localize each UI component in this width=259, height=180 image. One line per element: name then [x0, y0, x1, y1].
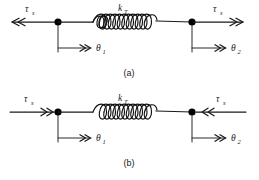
- panel-b-left-torque-subscript: s: [31, 99, 34, 106]
- panel-b-right-torque-arrow: [196, 108, 246, 116]
- panel-b-theta2-indicator: [192, 115, 226, 142]
- panel-a-theta2-subscript: 2: [238, 48, 242, 55]
- panel-b-theta2-symbol: θ: [231, 133, 236, 143]
- panel-b-theta1-indicator: [58, 115, 91, 142]
- panel-b-caption: (b): [124, 158, 135, 168]
- panel-a-theta1-subscript: 1: [103, 48, 106, 55]
- panel-a-theta2-indicator: [192, 25, 226, 52]
- panel-b-right-torque-symbol: τ: [216, 94, 220, 104]
- panel-b-left-torque-arrow: [10, 108, 54, 116]
- panel-a-spring-coil: [93, 14, 157, 29]
- panel-a-spring-label-subscript: T: [124, 8, 128, 15]
- panel-b-spring-label-subscript: T: [124, 98, 128, 105]
- panel-a-theta2-symbol: θ: [231, 43, 236, 53]
- panel-a-right-torque-arrow: [193, 18, 243, 26]
- panel-a-left-torque-arrow: [12, 18, 57, 26]
- panel-b-spring-label: k: [118, 93, 123, 103]
- panel-a-spring-label: k: [118, 3, 123, 13]
- panel-a: τ s k T: [0, 0, 259, 90]
- panel-a-theta1-symbol: θ: [96, 43, 101, 53]
- panel-a-theta1-indicator: [58, 25, 91, 52]
- panel-a-right-shaft: [156, 21, 192, 22]
- panel-b-left-torque-symbol: τ: [24, 94, 28, 104]
- panel-b: τ s k T: [0, 90, 259, 180]
- panel-b-theta1-subscript: 1: [103, 138, 106, 145]
- panel-b-spring-coil: [93, 104, 157, 119]
- panel-b-theta2-subscript: 2: [238, 138, 242, 145]
- panel-b-right-torque-subscript: s: [223, 99, 226, 106]
- panel-a-caption: (a): [124, 68, 135, 78]
- panel-a-right-torque-subscript: s: [220, 9, 223, 16]
- panel-b-theta1-symbol: θ: [96, 133, 101, 143]
- panel-a-left-torque-subscript: s: [32, 9, 35, 16]
- panel-a-right-torque-symbol: τ: [213, 4, 217, 14]
- torsional-spring-figure: τ s k T: [0, 0, 259, 180]
- panel-a-left-torque-symbol: τ: [25, 4, 29, 14]
- panel-b-right-shaft: [156, 111, 192, 112]
